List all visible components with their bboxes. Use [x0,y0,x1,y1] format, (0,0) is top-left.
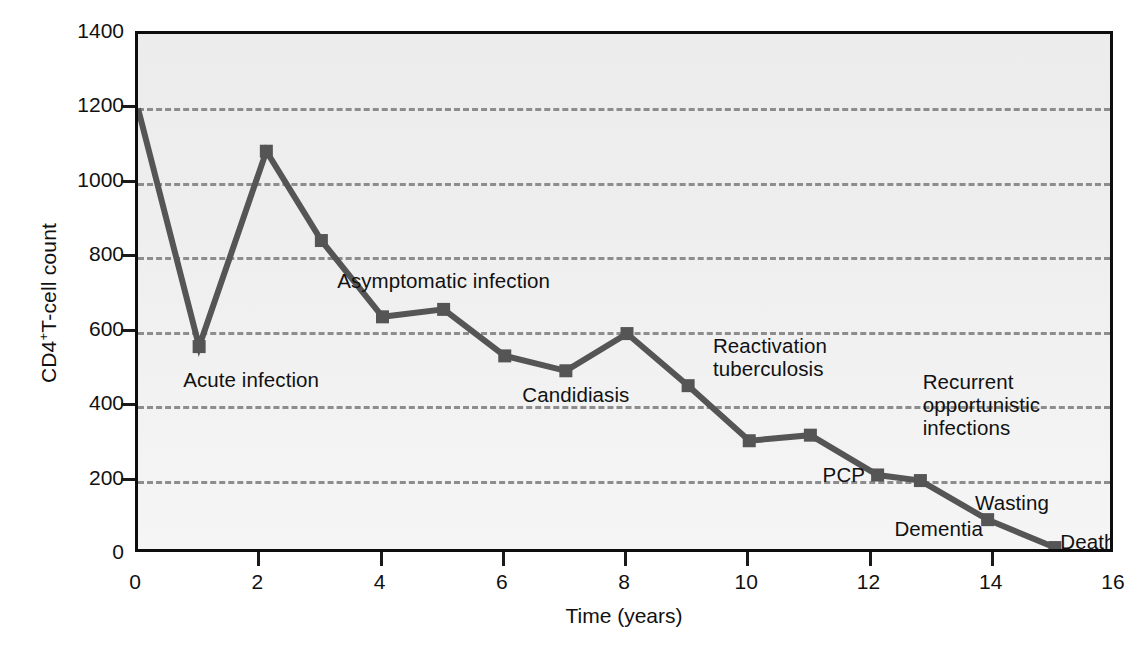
data-point-marker [914,474,927,487]
x-tick-mark-10 [746,552,749,566]
x-tick-label-2: 2 [227,570,287,594]
data-point-marker [804,429,817,442]
x-tick-mark-6 [502,552,505,566]
data-point-marker [743,434,756,447]
annotation-candidiasis: Candidiasis [522,383,629,406]
x-tick-mark-2 [257,552,260,566]
plot-area: Acute infectionAsymptomatic infectionCan… [135,31,1113,552]
y-tick-mark-1200 [121,105,135,108]
x-tick-label-8: 8 [594,570,654,594]
y-tick-mark-800 [121,254,135,257]
data-point-marker [376,310,389,323]
x-tick-label-16: 16 [1083,570,1143,594]
x-tick-label-0: 0 [105,570,165,594]
annotation-recurrent-opportunistic-infections: Recurrent opportunistic infections [923,370,1041,439]
y-axis-title-superscript: + [36,333,51,341]
y-tick-mark-600 [121,329,135,332]
y-tick-label-200: 200 [62,467,124,488]
y-tick-label-1400: 1400 [62,20,124,41]
data-point-marker [315,234,328,247]
data-point-marker [621,327,634,340]
data-point-marker [193,340,206,353]
x-tick-label-4: 4 [350,570,410,594]
annotation-acute-infection: Acute infection [183,368,319,391]
cd4-count-markers [193,145,1062,552]
y-tick-label-1200: 1200 [62,94,124,115]
x-tick-label-10: 10 [716,570,776,594]
y-tick-label-1000: 1000 [62,169,124,190]
y-tick-label-group: 0200400600800100012001400 [54,0,124,645]
data-point-marker [260,145,273,158]
annotation-reactivation-tuberculosis: Reactivation tuberculosis [713,334,827,380]
x-tick-mark-8 [624,552,627,566]
annotation-asymptomatic-infection: Asymptomatic infection [337,269,550,292]
data-point-marker [559,364,572,377]
x-tick-label-6: 6 [472,570,532,594]
series-line-chart [138,34,1113,552]
annotation-pcp: PCP [823,463,865,486]
annotation-death: Death [1060,530,1113,552]
y-tick-label-400: 400 [62,392,124,413]
x-tick-mark-4 [380,552,383,566]
x-tick-label-12: 12 [839,570,899,594]
y-tick-label-800: 800 [62,243,124,264]
chart-figure: CD4+T-cell count 02004006008001000120014… [0,0,1147,645]
x-tick-mark-14 [991,552,994,566]
x-tick-mark-12 [869,552,872,566]
annotation-wasting: Wasting [975,491,1049,514]
y-tick-mark-1000 [121,180,135,183]
data-point-marker [437,303,450,316]
data-point-marker [682,379,695,392]
y-tick-label-0: 0 [62,541,124,562]
annotation-dementia: Dementia [894,517,983,540]
data-point-marker [871,468,884,481]
x-axis-title: Time (years) [135,604,1113,628]
y-tick-mark-200 [121,478,135,481]
data-point-marker [498,349,511,362]
x-tick-label-14: 14 [961,570,1021,594]
y-tick-label-600: 600 [62,318,124,339]
y-tick-mark-400 [121,403,135,406]
